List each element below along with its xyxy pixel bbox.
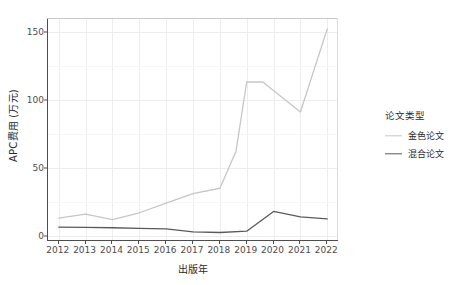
series-line-hybrid — [59, 211, 328, 232]
x-tick-label: 2020 — [261, 245, 284, 255]
series-lines — [48, 18, 338, 240]
x-tick-label: 2017 — [181, 245, 204, 255]
chart-figure: APC费用 (万元) 050100150 2012201320142015201… — [0, 0, 470, 285]
y-tick-label: 50 — [33, 163, 44, 173]
x-tick-label: 2014 — [100, 245, 123, 255]
x-tick-label: 2016 — [154, 245, 177, 255]
x-tick-mark — [58, 241, 59, 244]
legend: 论文类型 金色论文 混合论文 — [385, 108, 470, 165]
x-tick-mark — [165, 241, 166, 244]
x-tick-label: 2022 — [315, 245, 338, 255]
y-axis-tick-labels: 050100150 — [20, 18, 44, 240]
panel-right-border — [337, 18, 338, 240]
legend-key-hybrid-icon — [385, 149, 402, 159]
legend-key-gold-icon — [385, 131, 402, 141]
plot-panel — [47, 18, 337, 240]
legend-item-hybrid[interactable]: 混合论文 — [385, 147, 470, 160]
x-tick-mark — [192, 241, 193, 244]
legend-label-hybrid: 混合论文 — [408, 147, 444, 160]
x-tick-mark — [273, 241, 274, 244]
x-axis-title: 出版年 — [47, 261, 338, 276]
x-tick-mark — [111, 241, 112, 244]
x-tick-mark — [138, 241, 139, 244]
legend-title: 论文类型 — [385, 108, 470, 122]
x-tick-label: 2018 — [207, 245, 230, 255]
y-axis-title-text: APC费用 (万元) — [5, 89, 20, 162]
x-tick-mark — [219, 241, 220, 244]
y-axis-title: APC费用 (万元) — [2, 0, 22, 250]
x-tick-label: 2012 — [46, 245, 69, 255]
x-tick-mark — [299, 241, 300, 244]
y-tick-label: 100 — [27, 95, 44, 105]
x-tick-mark — [85, 241, 86, 244]
series-line-gold — [59, 29, 328, 220]
legend-label-gold: 金色论文 — [408, 129, 444, 142]
legend-item-gold[interactable]: 金色论文 — [385, 129, 470, 142]
x-tick-label: 2019 — [234, 245, 257, 255]
x-axis-tick-labels: 2012201320142015201620172018201920202021… — [47, 241, 338, 261]
x-tick-label: 2021 — [288, 245, 311, 255]
panel-top-border — [47, 18, 338, 19]
y-tick-label: 150 — [27, 27, 44, 37]
x-tick-mark — [246, 241, 247, 244]
x-tick-label: 2013 — [73, 245, 96, 255]
x-tick-mark — [326, 241, 327, 244]
x-tick-label: 2015 — [127, 245, 150, 255]
